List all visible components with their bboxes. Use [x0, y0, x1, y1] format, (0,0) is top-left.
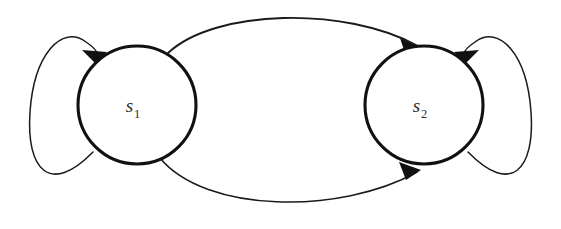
s1-to-s2-top-path [168, 18, 418, 53]
s1-to-s2-bottom-path [160, 158, 417, 202]
state-s1-label-base: s [126, 95, 133, 116]
state-diagram-canvas: s1 s2 [0, 0, 561, 229]
state-s1-circle[interactable] [78, 46, 196, 164]
state-s2-label-subscript: 2 [421, 107, 427, 121]
state-s2-circle[interactable] [365, 46, 483, 164]
state-s1-label-subscript: 1 [134, 107, 140, 121]
state-diagram-figure: s1 s2 [0, 0, 561, 229]
transition-s1-to-s2-top [168, 18, 422, 56]
state-node-s2[interactable]: s2 [365, 46, 483, 164]
state-s2-label-base: s [413, 95, 420, 116]
transition-s1-to-s2-bottom [160, 158, 421, 202]
state-node-s1[interactable]: s1 [78, 46, 196, 164]
